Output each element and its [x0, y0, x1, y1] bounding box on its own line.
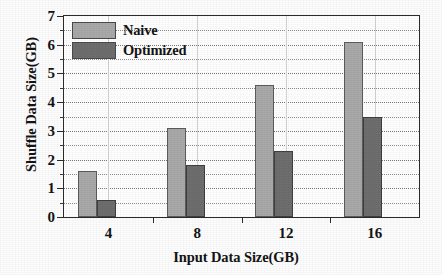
y-tick-label: 0 [48, 210, 56, 225]
legend-swatch-optimized-icon [72, 42, 116, 59]
legend-item-optimized: Optimized [72, 41, 186, 59]
y-tick-mark [57, 188, 64, 189]
bar-naive-8 [167, 128, 186, 217]
y-tick-label: 6 [48, 37, 56, 52]
y-tick-minor [60, 59, 64, 60]
x-tick-label: 4 [105, 226, 113, 241]
x-tick-mark [153, 217, 154, 223]
x-tick-label: 8 [193, 226, 201, 241]
legend-label-naive: Naive [123, 23, 157, 38]
chart-legend: Naive Optimized [72, 21, 186, 59]
y-tick-minor [60, 117, 64, 118]
bar-chart-figure: Shuffle Data Size(GB) Input Data Size(GB… [0, 0, 442, 275]
y-tick-mark [57, 45, 64, 46]
bar-optimized-4 [97, 200, 116, 217]
x-tick-mark [242, 217, 243, 223]
bar-optimized-12 [274, 151, 293, 217]
bar-naive-16 [344, 42, 363, 217]
y-tick-label: 3 [48, 123, 56, 138]
y-tick-label: 7 [48, 9, 56, 24]
y-tick-minor [60, 88, 64, 89]
gridline-horizontal [64, 88, 419, 89]
y-tick-label: 1 [48, 181, 56, 196]
bar-optimized-16 [363, 117, 382, 218]
gridline-horizontal [64, 59, 419, 60]
y-tick-label: 2 [48, 152, 56, 167]
y-tick-minor [60, 145, 64, 146]
x-tick-label: 12 [278, 226, 293, 241]
legend-swatch-naive-icon [72, 22, 116, 39]
x-tick-mark [330, 217, 331, 223]
y-tick-mark [57, 102, 64, 103]
y-tick-minor [60, 30, 64, 31]
y-tick-mark [57, 160, 64, 161]
legend-label-optimized: Optimized [123, 43, 186, 58]
y-tick-mark [57, 131, 64, 132]
y-tick-minor [60, 203, 64, 204]
y-tick-mark [57, 217, 64, 218]
gridline-horizontal [64, 102, 419, 103]
y-tick-mark [57, 73, 64, 74]
y-tick-minor [60, 174, 64, 175]
bar-naive-4 [78, 171, 97, 217]
bar-naive-12 [255, 85, 274, 217]
y-tick-label: 5 [48, 66, 56, 81]
y-tick-mark [57, 16, 64, 17]
x-tick-label: 16 [367, 226, 382, 241]
gridline-horizontal [64, 73, 419, 74]
bar-optimized-8 [186, 165, 205, 217]
y-tick-label: 4 [48, 95, 56, 110]
x-axis-title: Input Data Size(GB) [50, 249, 422, 266]
legend-item-naive: Naive [72, 21, 186, 39]
y-axis-title: Shuffle Data Size(GB) [23, 0, 40, 215]
plot-area: 01234567 481216 Naive Optimized [63, 15, 420, 218]
